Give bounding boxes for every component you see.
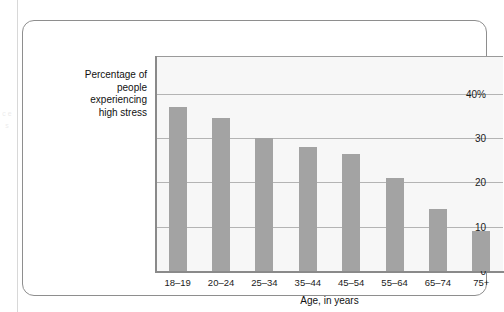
y-axis-title: Percentage of people experiencing high s… — [37, 69, 147, 119]
page-margin-rule — [17, 0, 18, 312]
x-tick-label-65–74: 65–74 — [425, 277, 451, 288]
x-tick-label-45–54: 45–54 — [338, 277, 364, 288]
x-tick-label-35–44: 35–44 — [295, 277, 321, 288]
bar-35–44 — [299, 147, 317, 271]
x-tick-label-20–24: 20–24 — [208, 277, 234, 288]
x-tick-label-55–64: 55–64 — [381, 277, 407, 288]
figure-frame: Percentage of people experiencing high s… — [22, 20, 487, 296]
x-tick-label-25–34: 25–34 — [251, 277, 277, 288]
bar-18–19 — [169, 107, 187, 271]
y-axis-title-line-1: Percentage of — [37, 69, 147, 82]
bar-25–34 — [255, 138, 273, 271]
bars-layer — [156, 56, 503, 271]
y-axis-title-line-3: experiencing — [37, 94, 147, 107]
x-tick-label-18–19: 18–19 — [164, 277, 190, 288]
page-edge-bleed-text: c e s — [0, 108, 14, 228]
bar-55–64 — [386, 178, 404, 271]
x-tick-label-75+: 75+ — [473, 277, 489, 288]
bar-20–24 — [212, 118, 230, 271]
y-axis-title-line-2: people — [37, 82, 147, 95]
x-axis-title: Age, in years — [156, 295, 503, 306]
y-axis-title-line-4: high stress — [37, 107, 147, 120]
bar-45–54 — [342, 154, 360, 271]
bar-75+ — [472, 231, 490, 271]
bar-65–74 — [429, 209, 447, 271]
